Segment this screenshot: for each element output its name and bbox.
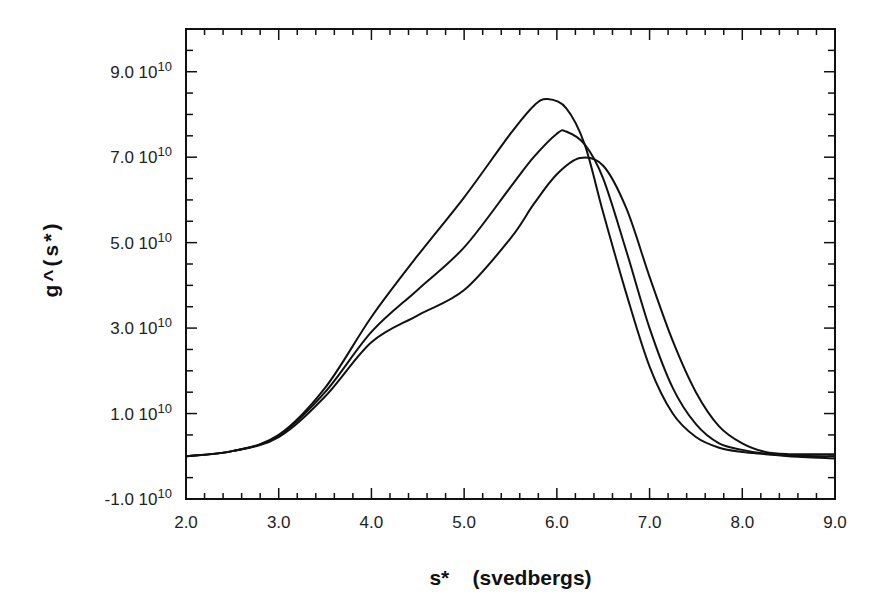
chart: 2.03.04.05.06.07.08.09.0 -1.0 10101.0 10… — [0, 0, 881, 616]
y-tick-label: 7.0 1010 — [110, 144, 172, 167]
y-tick-label: 9.0 1010 — [110, 59, 172, 82]
x-tick-label: 9.0 — [823, 513, 847, 532]
x-tick-label: 2.0 — [174, 513, 198, 532]
series-line-curve-2 — [186, 130, 835, 456]
series-layer — [186, 99, 835, 458]
y-tick-label: 5.0 1010 — [110, 230, 172, 253]
y-tick-labels: -1.0 10101.0 10103.0 10105.0 10107.0 101… — [105, 59, 172, 509]
x-tick-labels: 2.03.04.05.06.07.08.09.0 — [174, 513, 847, 532]
x-axis-title: s* (svedbergs) — [429, 566, 591, 589]
series-line-curve-1 — [186, 99, 835, 458]
x-tick-label: 7.0 — [638, 513, 662, 532]
y-axis-title: g^(s*) — [39, 221, 62, 298]
y-tick-label: 1.0 1010 — [110, 401, 172, 424]
x-tick-label: 4.0 — [360, 513, 384, 532]
y-tick-label: 3.0 1010 — [110, 315, 172, 338]
series-line-curve-3 — [186, 157, 835, 456]
x-tick-label: 6.0 — [545, 513, 569, 532]
x-tick-label: 8.0 — [730, 513, 754, 532]
x-tick-label: 5.0 — [452, 513, 476, 532]
plot-frame — [186, 29, 835, 499]
y-tick-label: -1.0 1010 — [105, 486, 172, 509]
ticks — [186, 29, 835, 499]
x-tick-label: 3.0 — [267, 513, 291, 532]
